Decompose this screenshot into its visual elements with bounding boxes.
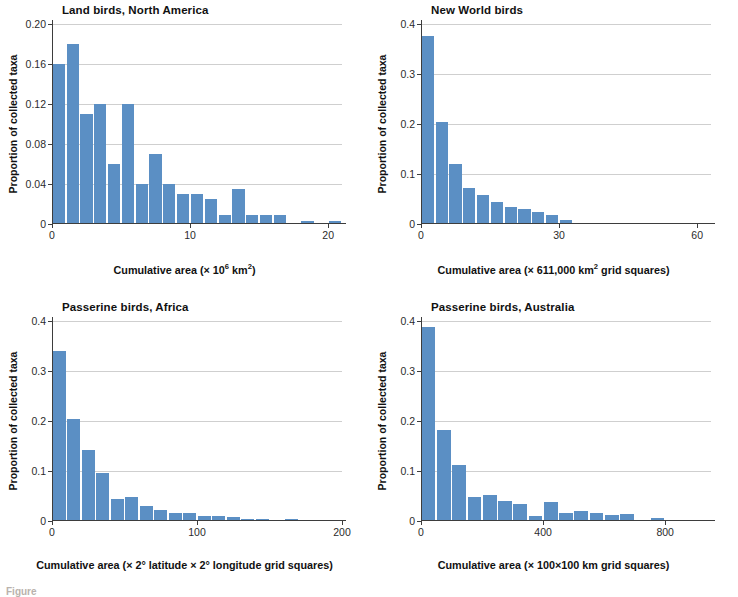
histogram-bar [191, 194, 203, 224]
histogram-bar [67, 419, 80, 522]
x-tick-label: 0 [418, 229, 424, 241]
y-tick-label: 0 [40, 218, 46, 230]
x-tick-label: 400 [534, 526, 552, 538]
plot-inner: 00.10.20.30.403060 [421, 24, 711, 224]
histogram-bar [82, 450, 95, 522]
histogram-bar [513, 504, 527, 521]
histogram-bar [449, 164, 461, 224]
x-axis-label: Cumulative area (× 100×100 km grid squar… [369, 559, 738, 571]
plot-area: 00.10.20.30.40400800 [421, 321, 711, 521]
x-tick-label: 800 [656, 526, 674, 538]
x-tick-label: 0 [49, 229, 55, 241]
gridline [52, 64, 342, 65]
x-tick-label: 60 [691, 229, 703, 241]
plot-inner: 00.040.080.120.160.2001020 [52, 24, 342, 224]
histogram-bar [80, 114, 92, 224]
y-axis-label: Proportion of collected taxa [6, 321, 20, 521]
plot-inner: 00.10.20.30.40100200 [52, 321, 342, 521]
histogram-bar [163, 184, 175, 224]
x-tick-label: 30 [553, 229, 565, 241]
histogram-bar [544, 502, 558, 522]
x-axis-label: Cumulative area (× 106 km2) [0, 262, 369, 276]
plot-inner: 00.10.20.30.40400800 [421, 321, 711, 521]
y-tick-label: 0.1 [400, 168, 415, 180]
x-tick-label: 200 [333, 526, 351, 538]
gridline [52, 421, 342, 422]
y-axis-line [421, 20, 422, 224]
gridline [421, 371, 711, 372]
histogram-bar [108, 164, 120, 224]
gridline [421, 174, 711, 175]
y-tick-label: 0 [40, 515, 46, 527]
panel-passerine-birds-australia: Passerine birds, Australia Proportion of… [369, 297, 738, 589]
x-tick-mark [190, 224, 191, 228]
gridline [52, 321, 342, 322]
plot-area: 00.040.080.120.160.2001020 [52, 24, 342, 224]
gridline [421, 321, 711, 322]
x-tick-mark [665, 521, 666, 525]
histogram-bar [463, 188, 475, 224]
plot-area: 00.10.20.30.40100200 [52, 321, 342, 521]
x-tick-mark [328, 224, 329, 228]
y-axis-label: Proportion of collected taxa [375, 321, 389, 521]
histogram-bar [491, 202, 503, 225]
x-tick-label: 0 [49, 526, 55, 538]
x-tick-mark [421, 521, 422, 525]
histogram-bar [53, 64, 65, 224]
y-tick-label: 0.4 [400, 315, 415, 327]
x-tick-label: 0 [418, 526, 424, 538]
y-tick-label: 0.2 [31, 415, 46, 427]
y-tick-label: 0.04 [26, 178, 46, 190]
histogram-bar [468, 497, 482, 522]
gridline [52, 371, 342, 372]
histogram-bar [122, 104, 134, 224]
panel-passerine-birds-africa: Passerine birds, Africa Proportion of co… [0, 297, 369, 589]
y-axis-line [52, 317, 53, 521]
histogram-bar [125, 497, 138, 521]
histogram-bar [205, 199, 217, 224]
y-tick-label: 0.3 [31, 365, 46, 377]
histogram-bar [94, 104, 106, 224]
panel-title: Land birds, North America [62, 4, 209, 16]
histogram-bar [111, 499, 124, 522]
histogram-bar [96, 473, 109, 522]
figure-four-panel-histograms: Land birds, North America Proportion of … [0, 0, 738, 597]
plot-area: 00.10.20.30.403060 [421, 24, 711, 224]
y-tick-label: 0.12 [26, 98, 46, 110]
x-tick-mark [52, 224, 53, 228]
gridline [52, 24, 342, 25]
y-tick-label: 0.16 [26, 58, 46, 70]
histogram-bar [149, 154, 161, 224]
y-tick-label: 0.1 [400, 465, 415, 477]
x-tick-mark [421, 224, 422, 228]
histogram-bar [177, 194, 189, 224]
y-axis-line [421, 317, 422, 521]
histogram-bar [136, 184, 148, 224]
y-tick-label: 0.08 [26, 138, 46, 150]
y-tick-label: 0.3 [400, 68, 415, 80]
x-axis-line [421, 520, 715, 521]
gridline [421, 24, 711, 25]
histogram-bar [498, 501, 512, 521]
panel-title: New World birds [431, 4, 523, 16]
x-axis-line [421, 223, 715, 224]
y-tick-label: 0.2 [400, 415, 415, 427]
y-tick-label: 0.3 [400, 365, 415, 377]
y-tick-label: 0.2 [400, 118, 415, 130]
histogram-bar [232, 189, 244, 224]
histogram-bar [422, 327, 436, 521]
y-axis-line [52, 20, 53, 224]
histogram-bar [477, 195, 489, 225]
y-tick-label: 0.4 [400, 18, 415, 30]
histogram-bar [67, 44, 79, 224]
x-tick-label: 10 [184, 229, 196, 241]
panel-title: Passerine birds, Australia [431, 301, 574, 313]
y-tick-label: 0.20 [26, 18, 46, 30]
figure-caption-partial: Figure [6, 586, 37, 597]
histogram-bar [422, 36, 434, 224]
histogram-bar [452, 465, 466, 522]
panel-title: Passerine birds, Africa [62, 301, 189, 313]
histogram-bar [53, 351, 66, 521]
y-axis-label: Proportion of collected taxa [6, 24, 20, 224]
gridline [421, 421, 711, 422]
